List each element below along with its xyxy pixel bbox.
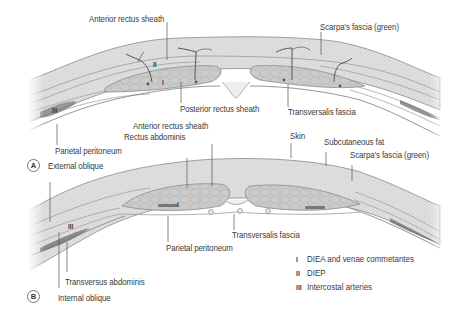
marker-iii-a: III <box>52 106 57 116</box>
legend-numeral: II <box>296 269 307 278</box>
legend-numeral: I <box>296 255 307 264</box>
marker-i-b: I <box>177 200 179 210</box>
label-external-oblique: External oblique <box>48 161 103 171</box>
legend-text: DIEA and venae commetantes <box>307 254 414 264</box>
marker-i-a: I <box>162 78 164 88</box>
legend-numeral: III <box>296 283 307 292</box>
marker-ii-a: II <box>153 60 156 70</box>
label-anterior-rectus-sheath-a: Anterior rectus sheath <box>89 14 164 24</box>
label-transversalis-fascia-b: Transversalis fascia <box>232 230 300 240</box>
label-anterior-rectus-sheath-b: Anterior rectus sheath <box>133 121 208 131</box>
panel-badge-b: B <box>27 290 40 303</box>
label-transversalis-fascia-a: Transversalis fascia <box>288 107 356 117</box>
label-parietal-peritoneum-a: Parietal peritoneum <box>55 146 122 156</box>
legend-item-iii: IIIIntercostal arteries <box>296 282 414 296</box>
label-scarpas-fascia-b: Scarpa's fascia (green) <box>350 150 429 160</box>
legend-item-i: IDIEA and venae commetantes <box>296 254 414 268</box>
label-internal-oblique: Internal oblique <box>58 293 111 303</box>
panel-a-illustration <box>28 22 450 150</box>
legend-text: DIEP <box>307 268 325 278</box>
legend: IDIEA and venae commetantes IIDIEP IIIIn… <box>296 254 424 296</box>
panel-badge-a: A <box>27 159 40 172</box>
label-posterior-rectus-sheath-a: Posterior rectus sheath <box>180 104 259 114</box>
legend-text: Intercostal arteries <box>307 282 372 292</box>
label-rectus-abdominis: Rectus abdominis <box>124 132 185 142</box>
legend-item-ii: IIDIEP <box>296 268 414 282</box>
label-skin: Skin <box>290 131 305 141</box>
label-parietal-peritoneum-b: Parietal peritoneum <box>166 243 233 253</box>
label-subcutaneous-fat: Subcutaneous fat <box>324 137 384 147</box>
marker-iii-b: III <box>68 222 73 232</box>
label-scarpas-fascia-a: Scarpa's fascia (green) <box>320 22 399 32</box>
label-transversus-abdominis: Transversus abdominis <box>65 277 145 287</box>
